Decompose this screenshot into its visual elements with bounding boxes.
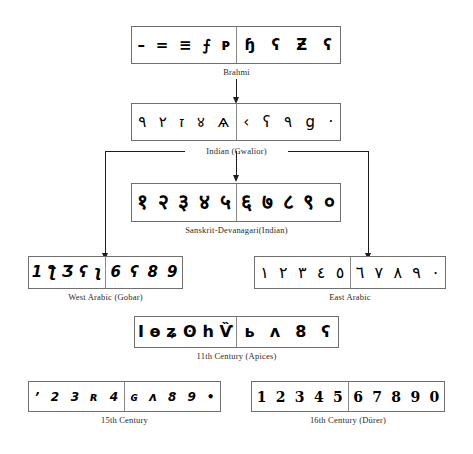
glyph: ʑ bbox=[166, 324, 177, 340]
glyph: ٢ bbox=[159, 115, 167, 130]
glyph: Ƶ bbox=[296, 38, 307, 53]
caption-15th-century: 15th Century bbox=[28, 415, 221, 425]
glyph-group-right-15th-century: ɢ ʌ 8 9 • bbox=[124, 382, 220, 411]
node-east-arabic: ١ ٢ ٣ ٤ ٥ ٦ ٧ ٨ ٩ ٠ bbox=[254, 256, 446, 289]
glyph: ʌ bbox=[270, 324, 280, 340]
glyphbox-15th-century: ʼ 2 3 ʀ 4 ɢ ʌ 8 9 • bbox=[28, 381, 221, 412]
glyph: ᴩ bbox=[222, 38, 230, 53]
glyph: ʕ bbox=[263, 115, 271, 130]
glyph: ƪ bbox=[48, 265, 56, 280]
node-15th-century: ʼ 2 3 ʀ 4 ɢ ʌ 8 9 • bbox=[28, 381, 221, 412]
node-16th-century: 1 2 3 4 5 6 7 8 9 0 bbox=[251, 381, 445, 412]
glyph: ४ bbox=[197, 115, 205, 130]
glyphbox-west-arabic: 1 ƪ Ʒ ʕ ʅ 6 ʕ 8 9 bbox=[28, 256, 183, 289]
glyph: ѳ bbox=[150, 324, 161, 340]
glyph: ٦ bbox=[356, 265, 365, 281]
glyph: ‹ bbox=[243, 115, 249, 130]
connector-brahmi-to-gwalior bbox=[236, 79, 237, 99]
glyph: Ʒ bbox=[62, 265, 74, 280]
glyph: ٨ bbox=[393, 265, 402, 281]
branch-riser-right bbox=[368, 151, 369, 256]
glyphbox-16th-century: 1 2 3 4 5 6 7 8 9 0 bbox=[251, 381, 445, 412]
glyphbox-east-arabic: ١ ٢ ٣ ٤ ٥ ٦ ٧ ٨ ٩ ٠ bbox=[254, 256, 446, 289]
glyph: २ bbox=[158, 192, 169, 213]
glyph-group-right-gwalior: ‹ ʕ ٩ ց · bbox=[236, 104, 341, 140]
glyph-group-right-east-arabic: ٦ ٧ ٨ ٩ ٠ bbox=[350, 257, 446, 288]
node-apices: I ѳ ʑ ʘ һ Ѷ ь ʌ 8 ʕ bbox=[134, 316, 339, 348]
caption-west-arabic: West Arabic (Gobar) bbox=[28, 292, 183, 302]
glyph: ٧ bbox=[375, 265, 384, 281]
glyph: ʀ bbox=[91, 391, 99, 403]
glyphbox-gwalior: ٩ ٢ ז ४ ѧ ‹ ʕ ٩ ց · bbox=[131, 103, 341, 141]
glyph: ʕ bbox=[271, 38, 280, 53]
branch-riser-left bbox=[105, 151, 106, 256]
glyph: 8 bbox=[391, 390, 401, 404]
glyphbox-devanagari: १ २ ३ ४ ५ ६ ७ ८ ९ ० bbox=[131, 183, 341, 222]
caption-16th-century: 16th Century (Dürer) bbox=[251, 415, 445, 425]
glyph: ʕ bbox=[321, 324, 330, 340]
glyph: ʕ bbox=[130, 265, 139, 280]
caption-apices: 11th Century (Apices) bbox=[0, 351, 473, 361]
glyph: ٩ bbox=[284, 115, 292, 130]
glyph: ० bbox=[324, 192, 335, 213]
glyph: 9 bbox=[167, 265, 177, 280]
glyph: ɢ bbox=[131, 391, 139, 403]
glyph-group-left-west-arabic: 1 ƪ Ʒ ʕ ʅ bbox=[29, 257, 105, 288]
glyph: ٠ bbox=[431, 265, 440, 281]
caption-east-arabic: East Arabic bbox=[254, 292, 446, 302]
glyph: ٤ bbox=[317, 265, 326, 281]
glyph: 7 bbox=[372, 390, 382, 404]
glyph-group-left-brahmi: – = ≡ ⨍ ᴩ bbox=[132, 27, 236, 63]
glyph: ९ bbox=[303, 192, 314, 213]
branch-riser-center bbox=[236, 151, 237, 178]
glyph: Ѷ bbox=[220, 324, 234, 340]
node-brahmi: – = ≡ ⨍ ᴩ ɧ ʕ Ƶ ʕ bbox=[131, 26, 341, 64]
glyph-group-left-devanagari: १ २ ३ ४ ५ bbox=[132, 184, 236, 221]
glyph: һ bbox=[202, 324, 213, 340]
node-gwalior: ٩ ٢ ז ४ ѧ ‹ ʕ ٩ ց · bbox=[131, 103, 341, 141]
glyph: ь bbox=[245, 324, 255, 340]
glyph: • bbox=[207, 391, 215, 403]
glyph: · bbox=[328, 115, 333, 130]
glyph: ʼ bbox=[35, 391, 40, 403]
glyph: 6 bbox=[111, 265, 121, 280]
glyph: 8 bbox=[168, 391, 176, 403]
glyph: ≡ bbox=[179, 38, 192, 53]
glyph: ⨍ bbox=[203, 38, 211, 53]
glyph-group-left-15th-century: ʼ 2 3 ʀ 4 bbox=[29, 382, 124, 411]
glyph: ٩ bbox=[138, 115, 146, 130]
glyph: ७ bbox=[262, 192, 273, 213]
glyph: 6 bbox=[353, 390, 363, 404]
caption-brahmi: Brahmi bbox=[0, 67, 473, 77]
glyph-group-right-devanagari: ६ ७ ८ ९ ० bbox=[236, 184, 341, 221]
glyph: 1 bbox=[32, 265, 42, 280]
glyph: ʌ bbox=[149, 391, 157, 403]
node-devanagari: १ २ ३ ४ ५ ६ ७ ८ ९ ० bbox=[131, 183, 341, 222]
arrowhead-to-devanagari bbox=[233, 175, 239, 182]
glyph-group-left-16th-century: 1 2 3 4 5 bbox=[252, 382, 348, 411]
glyph: ١ bbox=[260, 265, 269, 281]
glyph: ʕ bbox=[79, 265, 88, 280]
glyphbox-apices: I ѳ ʑ ʘ һ Ѷ ь ʌ 8 ʕ bbox=[134, 316, 339, 348]
glyph: 9 bbox=[187, 391, 195, 403]
glyph: 1 bbox=[257, 390, 267, 404]
glyph: 8 bbox=[295, 324, 306, 340]
glyph: ց bbox=[305, 115, 315, 130]
glyph-group-right-west-arabic: 6 ʕ 8 9 bbox=[105, 257, 182, 288]
glyph: 5 bbox=[333, 390, 343, 404]
glyph: ٢ bbox=[279, 265, 288, 281]
glyph: 2 bbox=[51, 391, 59, 403]
glyph: ʅ bbox=[93, 265, 102, 280]
glyph: ३ bbox=[178, 192, 189, 213]
glyph: – bbox=[137, 38, 145, 53]
glyph: ६ bbox=[241, 192, 252, 213]
glyph: = bbox=[156, 38, 169, 53]
glyph: 3 bbox=[71, 391, 79, 403]
glyphbox-brahmi: – = ≡ ⨍ ᴩ ɧ ʕ Ƶ ʕ bbox=[131, 26, 341, 64]
glyph-group-left-east-arabic: ١ ٢ ٣ ٤ ٥ bbox=[255, 257, 350, 288]
glyph: ٩ bbox=[412, 265, 421, 281]
glyph: ४ bbox=[199, 192, 210, 213]
glyph: I bbox=[138, 324, 144, 340]
glyph: 9 bbox=[410, 390, 420, 404]
glyph-group-right-apices: ь ʌ 8 ʕ bbox=[236, 317, 338, 347]
